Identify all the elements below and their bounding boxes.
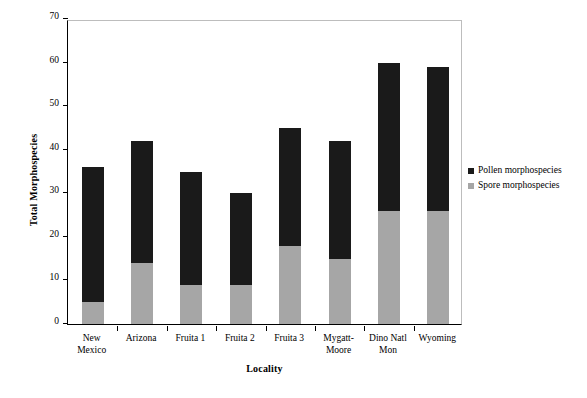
chart-figure: Total Morphospecies 010203040506070 New … bbox=[0, 0, 587, 398]
legend-item-label: Spore morphospecies bbox=[478, 180, 560, 191]
bar-series-container bbox=[68, 21, 461, 324]
bar-segment-pollen bbox=[427, 67, 449, 211]
bar-stack bbox=[131, 141, 153, 324]
y-axis-tick-label: 20 bbox=[50, 229, 60, 239]
bar-segment-spore bbox=[329, 259, 351, 324]
y-axis-tick-mark bbox=[63, 18, 68, 19]
bar-segment-pollen bbox=[230, 193, 252, 285]
bar-segment-pollen bbox=[131, 141, 153, 263]
y-axis-tick: 60 bbox=[30, 62, 68, 63]
x-axis-tick-mark bbox=[364, 326, 365, 331]
bar-segment-pollen bbox=[180, 172, 202, 285]
y-axis-tick: 70 bbox=[30, 18, 68, 19]
bar-stack bbox=[378, 63, 400, 324]
y-axis-tick: 30 bbox=[30, 192, 68, 193]
y-axis-title: Total Morphospecies bbox=[26, 15, 42, 345]
y-axis-tick-label: 60 bbox=[50, 55, 60, 65]
y-axis-tick-label: 50 bbox=[50, 98, 60, 108]
y-axis-tick-label: 40 bbox=[50, 142, 60, 152]
x-axis-tick-mark bbox=[167, 326, 168, 331]
bar-segment-spore bbox=[131, 263, 153, 324]
y-axis-tick-label: 70 bbox=[50, 11, 60, 21]
y-axis-tick-label: 10 bbox=[50, 272, 60, 282]
bar-segment-spore bbox=[230, 285, 252, 324]
legend-item[interactable]: Pollen morphospecies bbox=[468, 163, 586, 178]
x-axis-category-label: Wyoming bbox=[408, 332, 466, 344]
y-axis-tick-label: 0 bbox=[54, 316, 59, 326]
y-axis-tick: 0 bbox=[30, 323, 68, 324]
bar-segment-spore bbox=[82, 302, 104, 324]
bar-segment-pollen bbox=[279, 128, 301, 246]
bar-segment-pollen bbox=[378, 63, 400, 211]
x-axis-tick-mark bbox=[315, 326, 316, 331]
x-axis-tick-mark bbox=[266, 326, 267, 331]
plot-area: 010203040506070 bbox=[67, 20, 462, 325]
bar-segment-spore bbox=[279, 246, 301, 324]
y-axis-tick: 10 bbox=[30, 279, 68, 280]
x-axis-title: Locality bbox=[67, 363, 462, 374]
bar-stack bbox=[230, 193, 252, 324]
x-axis-tick-mark bbox=[414, 326, 415, 331]
x-axis-tick-mark bbox=[117, 326, 118, 331]
y-axis-tick: 20 bbox=[30, 236, 68, 237]
legend-item-label: Pollen morphospecies bbox=[478, 165, 562, 176]
bar-segment-pollen bbox=[82, 167, 104, 302]
bar-segment-spore bbox=[378, 211, 400, 324]
bar-stack bbox=[82, 167, 104, 324]
bar-segment-spore bbox=[180, 285, 202, 324]
legend-item[interactable]: Spore morphospecies bbox=[468, 178, 586, 193]
bar-stack bbox=[427, 67, 449, 324]
square-marker-icon bbox=[468, 168, 474, 174]
bar-stack bbox=[180, 172, 202, 325]
chart-legend: Pollen morphospeciesSpore morphospecies bbox=[468, 163, 586, 193]
y-axis-tick: 50 bbox=[30, 105, 68, 106]
y-axis-tick: 40 bbox=[30, 149, 68, 150]
bar-stack bbox=[329, 141, 351, 324]
bar-segment-pollen bbox=[329, 141, 351, 259]
x-axis-tick-mark bbox=[216, 326, 217, 331]
y-axis-tick-label: 30 bbox=[50, 185, 60, 195]
bar-stack bbox=[279, 128, 301, 324]
bar-segment-spore bbox=[427, 211, 449, 324]
square-marker-icon bbox=[468, 183, 474, 189]
